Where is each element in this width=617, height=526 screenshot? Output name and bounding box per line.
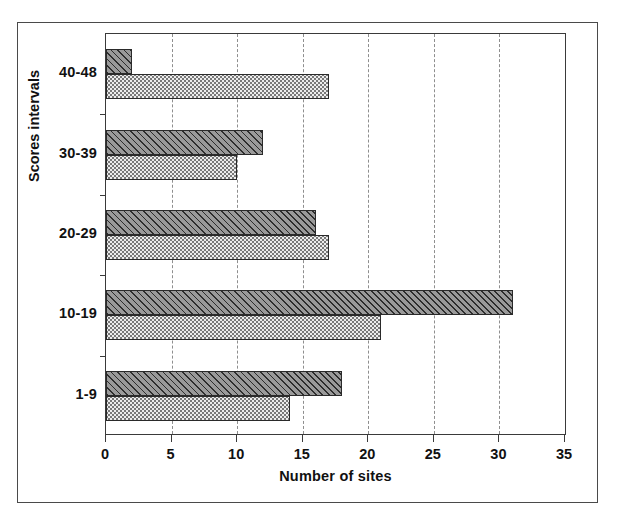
y-axis-tick bbox=[100, 356, 106, 357]
y-axis-label-30-39: 30-39 bbox=[33, 145, 97, 161]
plot-area bbox=[105, 33, 566, 435]
y-axis-label-40-48: 40-48 bbox=[33, 64, 97, 80]
x-axis-tick-label: 20 bbox=[347, 446, 387, 462]
x-axis-tick bbox=[236, 435, 237, 442]
y-axis-tick bbox=[100, 114, 106, 115]
x-axis-title: Number of sites bbox=[105, 468, 566, 484]
x-axis-tick-label: 30 bbox=[478, 446, 518, 462]
bar-hatched-30-39 bbox=[106, 130, 263, 155]
x-axis-tick-label: 0 bbox=[85, 446, 125, 462]
x-axis-tick-label: 25 bbox=[413, 446, 453, 462]
x-axis-tick bbox=[498, 435, 499, 442]
x-axis-tick bbox=[302, 435, 303, 442]
bar-hatched-1-9 bbox=[106, 371, 342, 396]
bar-dotted-30-39 bbox=[106, 155, 237, 180]
chart-figure: Scores intervals 40-4830-3920-2910-191-9… bbox=[0, 0, 617, 526]
x-axis-tick-label: 5 bbox=[151, 446, 191, 462]
gridline bbox=[499, 34, 500, 434]
x-axis-tick-label: 10 bbox=[216, 446, 256, 462]
x-axis-tick bbox=[105, 435, 106, 442]
x-axis-tick-label: 35 bbox=[544, 446, 584, 462]
y-axis-title: Scores intervals bbox=[26, 26, 42, 226]
bar-hatched-20-29 bbox=[106, 210, 316, 235]
y-axis-tick bbox=[100, 275, 106, 276]
gridline bbox=[368, 34, 369, 434]
bar-dotted-40-48 bbox=[106, 74, 329, 99]
bar-hatched-40-48 bbox=[106, 49, 132, 74]
x-axis: 05101520253035 bbox=[105, 435, 566, 469]
y-axis-label-10-19: 10-19 bbox=[33, 305, 97, 321]
x-axis-tick-label: 15 bbox=[282, 446, 322, 462]
bar-dotted-20-29 bbox=[106, 235, 329, 260]
x-axis-tick bbox=[433, 435, 434, 442]
y-axis-label-1-9: 1-9 bbox=[33, 386, 97, 402]
gridline bbox=[434, 34, 435, 434]
x-axis-tick bbox=[171, 435, 172, 442]
y-axis-label-20-29: 20-29 bbox=[33, 225, 97, 241]
bar-hatched-10-19 bbox=[106, 290, 513, 315]
bar-dotted-10-19 bbox=[106, 315, 381, 340]
y-axis-tick bbox=[100, 195, 106, 196]
bar-dotted-1-9 bbox=[106, 396, 290, 421]
x-axis-tick bbox=[564, 435, 565, 442]
x-axis-tick bbox=[367, 435, 368, 442]
